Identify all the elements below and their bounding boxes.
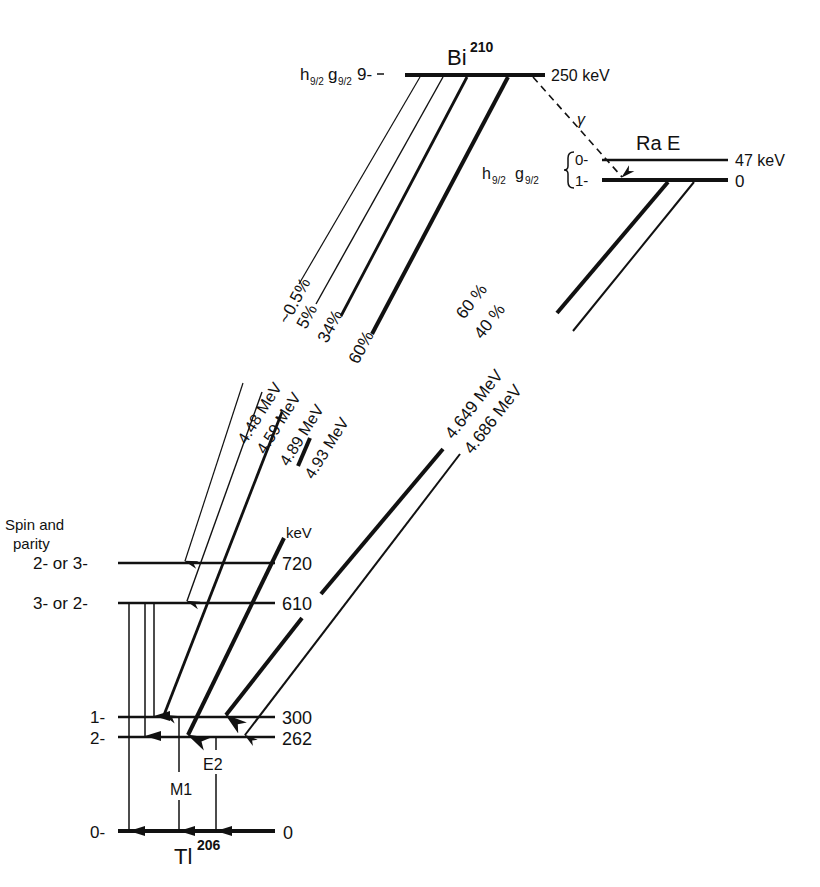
level-300-energy: 300 <box>282 708 312 728</box>
isomer-configuration-label: h 9/2 g 9/2 <box>482 165 539 186</box>
level-300-spin: 1- <box>90 708 105 727</box>
isomer-level-0-spin: 0- <box>575 151 588 168</box>
svg-text:h: h <box>482 165 491 182</box>
daughter-mass-label: 206 <box>197 837 221 853</box>
spin-parity-header-1: Spin and <box>5 516 64 533</box>
svg-text:h: h <box>300 65 309 84</box>
isomer-level-1-energy: 0 <box>735 172 744 191</box>
svg-text:9/2: 9/2 <box>492 175 506 186</box>
gamma-m1-label: M1 <box>170 781 192 798</box>
level-262-energy: 262 <box>282 729 312 749</box>
level-262-spin: 2- <box>90 729 105 748</box>
isomer-level-0-energy: 47 keV <box>735 152 785 169</box>
svg-text:9/2: 9/2 <box>310 76 324 87</box>
isomer-brace <box>564 152 574 188</box>
gamma-e2-label: E2 <box>203 756 223 773</box>
level-610-spin: 3- or 2- <box>33 594 88 613</box>
parent-mass-label: 210 <box>470 39 494 55</box>
svg-text:g: g <box>515 165 524 182</box>
level-0-spin: 0- <box>90 823 105 842</box>
gamma-label: γ <box>577 111 586 128</box>
isomer-name-label: Ra E <box>636 132 680 154</box>
bi-alpha-transitions: ~0.5% 5% 34% 60% 4.48 MeV 4.59 MeV 4.89 … <box>164 77 508 735</box>
level-610-energy: 610 <box>282 594 312 614</box>
decay-scheme-diagram: Bi 210 250 keV h 9/2 g 9/2 9- Ra E 47 ke… <box>0 0 820 887</box>
parent-configuration-label: h 9/2 g 9/2 9- <box>300 65 384 87</box>
svg-text:g: g <box>328 65 337 84</box>
parent-element-label: Bi <box>447 45 467 70</box>
svg-text:9/2: 9/2 <box>338 76 352 87</box>
level-720-spin: 2- or 3- <box>33 554 88 573</box>
isomer-level-1-spin: 1- <box>575 172 588 189</box>
isomer-levels-rae: Ra E 47 keV 0 0- 1- h 9/2 g 9/2 <box>482 132 785 191</box>
daughter-levels-tl206: Spin and parity keV 2- or 3- 720 3- or 2… <box>5 516 312 869</box>
spin-parity-header-2: parity <box>13 535 50 552</box>
level-0-energy: 0 <box>283 823 293 843</box>
parent-level-bi210: Bi 210 250 keV h 9/2 g 9/2 9- <box>300 39 610 87</box>
energy-unit-label: keV <box>286 524 312 541</box>
svg-text:9/2: 9/2 <box>525 175 539 186</box>
daughter-element-label: Tl <box>174 844 192 869</box>
svg-text:9-: 9- <box>357 65 372 84</box>
parent-energy-label: 250 keV <box>551 67 610 84</box>
level-720-energy: 720 <box>282 554 312 574</box>
